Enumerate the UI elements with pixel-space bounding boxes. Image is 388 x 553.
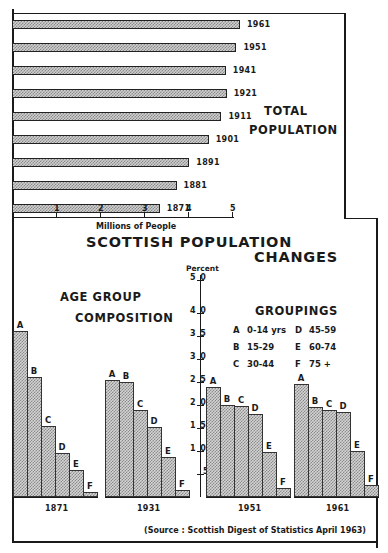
population-bar — [12, 66, 226, 75]
population-bar — [12, 43, 236, 52]
groupings-title: GROUPINGS — [255, 304, 338, 318]
population-year-label: 1901 — [216, 135, 239, 144]
age-group-bar-letter: B — [308, 396, 322, 406]
grouping-key: E — [295, 342, 309, 352]
age-group-bar — [234, 406, 249, 497]
frame-right-upper — [344, 13, 346, 219]
age-group-bar — [206, 387, 221, 497]
grouping-key: A — [233, 325, 247, 335]
grouping-range: 45-59 — [309, 325, 336, 335]
age-group-bar-letter: F — [175, 479, 189, 489]
age-group-bar-letter: B — [220, 394, 234, 404]
age-group-bar — [364, 485, 379, 497]
group-baseline — [13, 497, 98, 498]
x-tick-label: 5 — [230, 204, 236, 213]
grouping-key: B — [233, 342, 247, 352]
total-label-1: TOTAL — [264, 104, 308, 118]
chart-title-line-1: SCOTTISH POPULATION — [86, 234, 292, 250]
age-group-bar-letter: A — [105, 369, 119, 379]
age-group-bar — [175, 490, 190, 497]
age-group-label-2: COMPOSITION — [75, 311, 174, 325]
y-tick-label: 3 0 — [190, 352, 207, 361]
age-group-bar — [41, 426, 56, 497]
age-group-bar — [69, 470, 84, 497]
y-tick-label: 5 0 — [190, 273, 207, 282]
source-note: (Source : Scottish Digest of Statistics … — [144, 526, 366, 535]
age-group-label-1: AGE GROUP — [60, 290, 141, 304]
frame-right-lower — [376, 218, 378, 548]
group-year-label: 1931 — [137, 504, 160, 513]
group-year-label: 1871 — [45, 504, 68, 513]
population-year-label: 1911 — [228, 112, 251, 121]
population-bar — [12, 158, 189, 167]
age-group-bar — [133, 410, 148, 497]
grouping-item: A0-14 yrs — [233, 325, 286, 335]
age-group-bar — [147, 427, 162, 497]
age-group-bar-letter: E — [350, 440, 364, 450]
group-baseline — [206, 497, 291, 498]
age-group-bar — [294, 384, 309, 497]
age-group-bar — [13, 331, 28, 497]
age-group-bar-letter: E — [262, 441, 276, 451]
age-group-bar-letter: D — [55, 442, 69, 452]
age-group-bar — [220, 405, 235, 497]
frame-top — [12, 13, 345, 14]
population-year-label: 1891 — [196, 158, 219, 167]
age-group-bar — [27, 377, 42, 497]
group-baseline — [294, 497, 379, 498]
frame-step — [344, 218, 377, 219]
x-tick-label: 2 — [98, 204, 104, 213]
population-year-label: 1941 — [233, 66, 256, 75]
population-year-label: 1921 — [234, 89, 257, 98]
x-axis-line — [12, 217, 234, 218]
age-group-bar-letter: F — [364, 474, 378, 484]
age-group-bar — [55, 453, 70, 497]
age-group-bar-letter: C — [322, 399, 336, 409]
population-bar — [12, 89, 227, 98]
age-group-bar-letter: B — [27, 366, 41, 376]
grouping-range: 30-44 — [247, 359, 274, 369]
age-group-bar — [248, 414, 263, 497]
age-group-bar-letter: B — [119, 371, 133, 381]
age-group-bar-letter: D — [336, 401, 350, 411]
age-group-bar — [161, 457, 176, 497]
age-group-bar-letter: F — [276, 477, 290, 487]
y-tick-label: 3 5 — [190, 329, 207, 338]
age-group-bar — [336, 412, 351, 497]
grouping-range: 0-14 yrs — [247, 325, 286, 335]
frame-bottom — [12, 541, 378, 543]
population-bar — [12, 204, 160, 213]
population-bar — [12, 135, 209, 144]
grouping-range: 75 + — [309, 359, 331, 369]
group-baseline — [105, 497, 190, 498]
grouping-range: 60-74 — [309, 342, 336, 352]
group-year-label: 1961 — [326, 504, 349, 513]
population-bar — [12, 181, 177, 190]
grouping-item: C30-44 — [233, 359, 274, 369]
x-axis-label: Millions of People — [96, 222, 176, 231]
age-group-bar-letter: C — [133, 399, 147, 409]
age-group-bar — [105, 380, 120, 497]
grouping-key: F — [295, 359, 309, 369]
grouping-item: F75 + — [295, 359, 331, 369]
age-group-bar-letter: C — [41, 415, 55, 425]
total-label-2: POPULATION — [249, 123, 338, 137]
grouping-key: C — [233, 359, 247, 369]
age-group-bar-letter: D — [248, 403, 262, 413]
y-tick-label: 2 0 — [190, 398, 207, 407]
grouping-item: B15-29 — [233, 342, 274, 352]
y-tick-label: 4 0 — [190, 306, 207, 315]
grouping-key: D — [295, 325, 309, 335]
y-tick-label: 2 5 — [190, 375, 207, 384]
age-group-bar-letter: E — [161, 446, 175, 456]
group-year-label: 1951 — [238, 504, 261, 513]
age-group-bar-letter: C — [234, 395, 248, 405]
age-group-bar-letter: F — [83, 481, 97, 491]
y-tick-label: 1 0 — [190, 444, 207, 453]
population-year-label: 1961 — [247, 20, 270, 29]
age-group-bar — [308, 407, 323, 497]
population-year-label: 1881 — [184, 181, 207, 190]
age-group-bar — [262, 452, 277, 497]
age-group-bar — [322, 410, 337, 497]
y-tick-label: 1 5 — [190, 421, 207, 430]
